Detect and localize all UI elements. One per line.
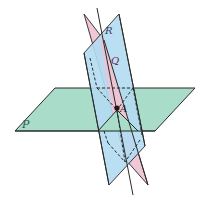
point-a <box>114 105 119 110</box>
label-a: A <box>119 103 127 114</box>
label-r: R <box>104 25 113 36</box>
three-planes-diagram: P Q R A <box>0 0 206 202</box>
label-q: Q <box>111 55 119 66</box>
label-p: P <box>21 118 30 131</box>
